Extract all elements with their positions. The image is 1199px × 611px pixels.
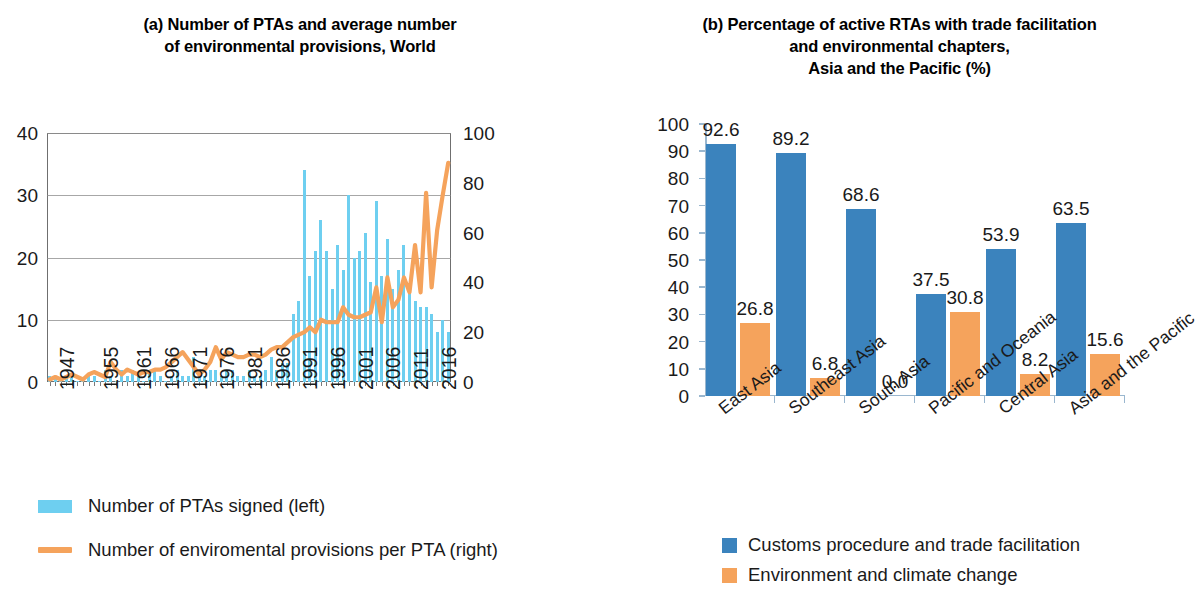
panel-a-xaxis-labels: 1947195519611966197119761981198619911996… — [0, 388, 600, 468]
panel-b-ytick: 50 — [600, 251, 689, 270]
panel-a-xtickmark — [321, 382, 322, 386]
panel-a-xtickmark — [50, 382, 51, 386]
panel-b-ytick: 60 — [600, 224, 689, 243]
panel-a-xlabel: 1947 — [58, 347, 78, 390]
panel-b-ytick: 10 — [600, 360, 689, 379]
legend-item-pta-bars: Number of PTAs signed (left) — [38, 495, 498, 517]
panel-a-ytick-right: 20 — [463, 323, 484, 342]
panel-a-ytick-right: 40 — [463, 273, 484, 292]
panel-b-value-label: 92.6 — [691, 120, 751, 139]
panel-a-xlabel: 2001 — [357, 347, 377, 390]
panel-b-value-label: 89.2 — [761, 129, 821, 148]
panel-a-ytick-left: 40 — [0, 124, 38, 143]
panel-a-ytick-right: 100 — [463, 124, 495, 143]
panel-b-group: 37.530.8 — [915, 124, 985, 396]
panel-a-xtickmark — [238, 382, 239, 386]
panel-b-title-line2: and environmental chapters, — [789, 37, 1010, 55]
panel-a-xlabel: 1955 — [102, 347, 122, 390]
panel-a-xtickmark — [155, 382, 156, 386]
panel-b-ytick: 70 — [600, 197, 689, 216]
panel-a-ytick-right: 80 — [463, 174, 484, 193]
panel-b-value-label: 53.9 — [971, 225, 1031, 244]
panel-b-legend: Customs procedure and trade facilitation… — [722, 534, 1080, 594]
panel-b-title: (b) Percentage of active RTAs with trade… — [600, 0, 1199, 79]
panel-b-title-line1: (b) Percentage of active RTAs with trade… — [702, 15, 1096, 33]
panel-a: (a) Number of PTAs and average number of… — [0, 0, 600, 611]
panel-b-value-label: 63.5 — [1041, 199, 1101, 218]
panel-a-xlabel: 2011 — [412, 348, 432, 390]
panel-a-xlabel: 1996 — [329, 347, 349, 390]
panel-b-value-label: 68.6 — [831, 185, 891, 204]
panel-b-group: 92.626.8 — [705, 124, 775, 396]
panel-a-xlabel: 1961 — [135, 347, 155, 390]
panel-b-ytick: 100 — [600, 115, 689, 134]
legend-swatch-bar-icon — [38, 500, 72, 513]
panel-a-xlabel: 1971 — [191, 347, 211, 390]
legend-label-environment: Environment and climate change — [748, 564, 1017, 586]
panel-a-ytick-left: 10 — [0, 311, 38, 330]
panel-a-ytick-right: 60 — [463, 224, 484, 243]
panel-a-title-line1: (a) Number of PTAs and average number — [143, 15, 456, 33]
panel-b-ytick: 30 — [600, 305, 689, 324]
panel-a-xlabel: 2006 — [384, 347, 404, 390]
panel-a-plot-area — [47, 133, 451, 382]
panel-a-xlabel: 1976 — [218, 347, 238, 390]
panel-b-xaxis-labels: East AsiaSoutheast AsiaSouth AsiaPacific… — [600, 400, 1199, 510]
panel-a-xtickmark — [83, 382, 84, 386]
panel-b-value-label: 37.5 — [901, 270, 961, 289]
legend-item-customs: Customs procedure and trade facilitation — [722, 534, 1080, 556]
panel-a-xlabel: 1991 — [301, 347, 321, 390]
panel-b-bar — [916, 294, 946, 396]
panel-b-title-line3: Asia and the Pacific (%) — [808, 59, 991, 77]
panel-b: (b) Percentage of active RTAs with trade… — [600, 0, 1199, 611]
panel-a-xtickmark — [94, 382, 95, 386]
legend-swatch-blue-icon — [722, 538, 737, 553]
panel-a-xtickmark — [127, 382, 128, 386]
panel-a-xlabel: 1966 — [163, 347, 183, 390]
panel-b-ytick: 40 — [600, 278, 689, 297]
panel-a-xtickmark — [89, 382, 90, 386]
panel-b-group: 89.26.8 — [775, 124, 845, 396]
legend-item-provisions-line: Number of enviromental provisions per PT… — [38, 539, 498, 561]
panel-a-xlabel: 2016 — [440, 347, 460, 390]
panel-b-value-label: 15.6 — [1075, 330, 1135, 349]
panel-a-xtickmark — [404, 382, 405, 386]
panel-a-legend: Number of PTAs signed (left) Number of e… — [38, 495, 498, 583]
panel-a-title: (a) Number of PTAs and average number of… — [0, 0, 600, 58]
panel-a-ytick-left: 30 — [0, 186, 38, 205]
panel-a-xlabel: 1981 — [246, 347, 266, 390]
panel-a-line-series — [47, 133, 451, 382]
legend-label-pta-bars: Number of PTAs signed (left) — [88, 495, 325, 517]
panel-b-ytick: 80 — [600, 169, 689, 188]
panel-b-ytick: 20 — [600, 333, 689, 352]
panel-a-xlabel: 1986 — [274, 347, 294, 390]
panel-b-ytick: 90 — [600, 142, 689, 161]
panel-a-ytick-left: 20 — [0, 249, 38, 268]
legend-label-provisions-line: Number of enviromental provisions per PT… — [88, 539, 498, 561]
legend-item-environment: Environment and climate change — [722, 564, 1080, 586]
panel-b-bar — [706, 144, 736, 396]
legend-swatch-line-icon — [38, 547, 72, 553]
legend-label-customs: Customs procedure and trade facilitation — [748, 534, 1080, 556]
panel-a-title-line2: of environmental provisions, World — [164, 37, 435, 55]
legend-swatch-orange-icon — [722, 568, 737, 583]
